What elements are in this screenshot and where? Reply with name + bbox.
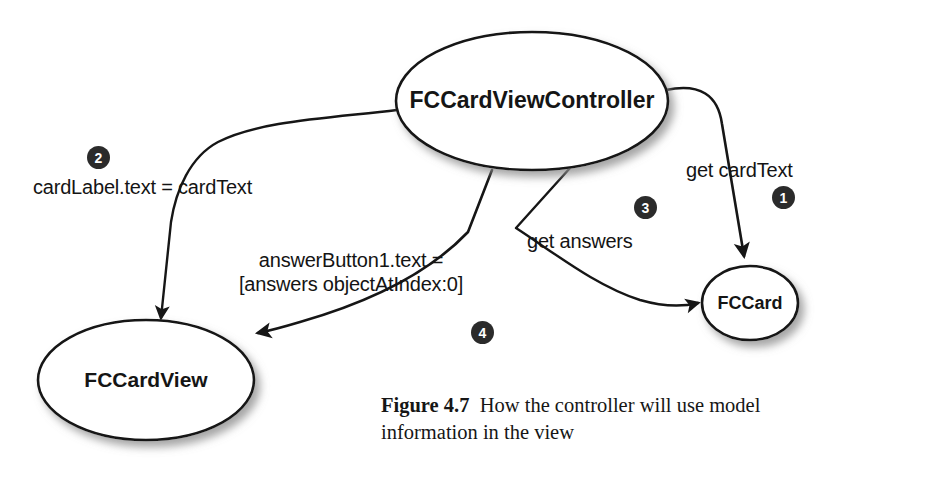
node-fccardviewcontroller-label: FCCardViewController (410, 87, 655, 113)
node-fccardview[interactable]: FCCardView (38, 320, 254, 440)
edge-label-answer-button-text: answerButton1.text = [answers objectAtIn… (239, 248, 463, 297)
node-fccard-label: FCCard (717, 293, 782, 313)
figure-page: { "figure": { "caption_label": "Figure 4… (0, 0, 950, 495)
node-fccardview-label: FCCardView (84, 368, 208, 391)
step-badge-3: 3 (634, 196, 657, 219)
edge-label-answer-button-text-line2: [answers objectAtIndex:0] (239, 272, 463, 296)
step-badge-4: 4 (471, 321, 494, 344)
step-badge-2: 2 (87, 146, 110, 169)
node-fccardviewcontroller[interactable]: FCCardViewController (396, 32, 668, 170)
step-badge-1: 1 (772, 186, 795, 209)
node-fccard[interactable]: FCCard (702, 266, 798, 340)
figure-caption: Figure 4.7 How the controller will use m… (381, 392, 801, 446)
edge-label-answer-button-text-line1: answerButton1.text = (239, 248, 463, 272)
edge-label-card-label-text: cardLabel.text = cardText (33, 175, 252, 199)
edge-label-get-answers: get answers (527, 229, 633, 253)
edge-label-get-card-text: get cardText (686, 158, 793, 182)
figure-caption-label: Figure 4.7 (381, 394, 469, 416)
